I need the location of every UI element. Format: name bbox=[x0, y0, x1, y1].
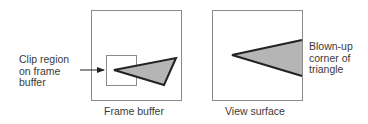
callout-line: triangle bbox=[309, 64, 353, 76]
callout-line: buffer bbox=[19, 77, 69, 89]
view-surface-caption: View surface bbox=[225, 106, 285, 118]
callout-line: Blown-up bbox=[309, 41, 353, 53]
blown-up-corner-callout: Blown-up corner of triangle bbox=[309, 41, 353, 76]
frame-buffer-caption: Frame buffer bbox=[104, 106, 164, 118]
clip-region-callout: Clip region on frame buffer bbox=[19, 54, 69, 89]
callout-line: Clip region bbox=[19, 54, 69, 66]
